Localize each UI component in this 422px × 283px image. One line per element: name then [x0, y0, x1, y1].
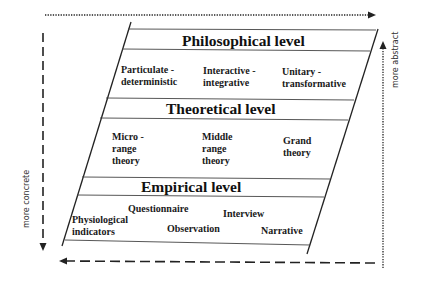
item-particulate-1: Particulate -	[121, 64, 174, 76]
item-grand-2: theory	[283, 147, 311, 159]
item-physiological-2: indicators	[72, 226, 115, 238]
level-title-philosophical: Philosophical level	[182, 32, 305, 50]
item-interactive-1: Interactive -	[203, 65, 255, 77]
item-unitary-1: Unitary -	[282, 66, 321, 78]
item-narrative: Narrative	[261, 225, 303, 237]
item-micro-2: range	[112, 143, 136, 155]
level-title-theoretical: Theoretical level	[166, 100, 275, 118]
item-micro-3: theory	[112, 155, 140, 167]
axis-label-more-abstract: more abstract	[391, 32, 400, 88]
item-middle-3: theory	[202, 155, 230, 167]
item-grand-1: Grand	[283, 135, 311, 147]
right-dotted-arrow	[380, 41, 387, 268]
item-particulate-2: deterministic	[121, 76, 177, 88]
item-observation: Observation	[167, 223, 220, 235]
top-dotted-arrow	[45, 12, 376, 19]
item-interactive-2: integrative	[203, 77, 249, 89]
axis-label-more-concrete: more concrete	[22, 170, 31, 228]
item-middle-2: range	[202, 143, 226, 155]
item-physiological-1: Physiological	[72, 214, 128, 226]
left-dashed-arrow	[40, 33, 47, 251]
level-title-empirical: Empirical level	[141, 178, 241, 196]
item-interview: Interview	[223, 208, 264, 220]
item-middle-1: Middle	[202, 131, 233, 143]
abstraction-levels-diagram: Philosophical level Particulate - determ…	[0, 0, 422, 283]
item-questionnaire: Questionnaire	[128, 203, 188, 215]
right-slanted-border	[307, 29, 378, 254]
item-micro-1: Micro -	[112, 131, 144, 143]
item-unitary-2: transformative	[282, 78, 346, 90]
bottom-dashed-arrow	[59, 258, 375, 265]
